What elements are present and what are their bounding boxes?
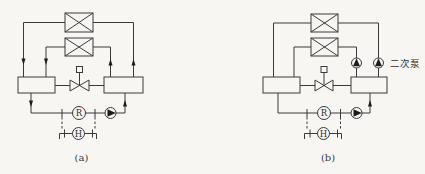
regulator-label-a: R — [76, 108, 83, 118]
heat-exchanger-top-a — [65, 13, 93, 32]
sensor-label-b: H — [320, 129, 327, 139]
control-assembly-b: R H — [305, 107, 342, 140]
diagram-b: 二次泵 R H (b) — [263, 14, 420, 163]
secondary-pump-label: 二次泵 — [390, 58, 420, 69]
flow-arrow-up-icon — [368, 100, 372, 107]
caption-b: (b) — [321, 152, 335, 163]
secondary-pump-2 — [374, 58, 384, 68]
valve-actuator-icon — [321, 67, 327, 73]
pump-piping-schematic-figure: R H (a) — [0, 0, 425, 174]
supply-header-a — [18, 77, 55, 93]
control-valve-b — [315, 67, 333, 92]
schematic-canvas: R H (a) — [0, 0, 425, 174]
flow-arrow-up-icon — [132, 59, 136, 66]
sensor-label-a: H — [75, 129, 82, 139]
caption-a: (a) — [75, 152, 89, 163]
flow-arrow-down-icon — [44, 59, 48, 66]
regulator-label-b: R — [321, 108, 328, 118]
secondary-pump-1 — [352, 58, 362, 68]
flow-arrow-down-icon — [29, 101, 33, 108]
heat-exchanger-bottom-a — [65, 38, 93, 56]
return-header-a — [104, 77, 143, 93]
valve-actuator-icon — [77, 67, 83, 73]
flow-arrow-down-icon — [22, 59, 26, 66]
flow-arrow-up-icon — [123, 100, 127, 107]
supply-header-b — [263, 77, 300, 93]
heat-exchanger-bottom-b — [311, 38, 338, 56]
control-valve-a — [70, 67, 89, 92]
heat-exchanger-top-b — [311, 14, 338, 32]
control-assembly-a: R H — [60, 107, 97, 140]
diagram-a: R H (a) — [18, 13, 143, 163]
circulation-pump-b — [351, 108, 362, 119]
return-header-b — [351, 77, 387, 93]
circulation-pump-a — [105, 108, 116, 119]
flow-arrow-up-icon — [109, 59, 113, 66]
